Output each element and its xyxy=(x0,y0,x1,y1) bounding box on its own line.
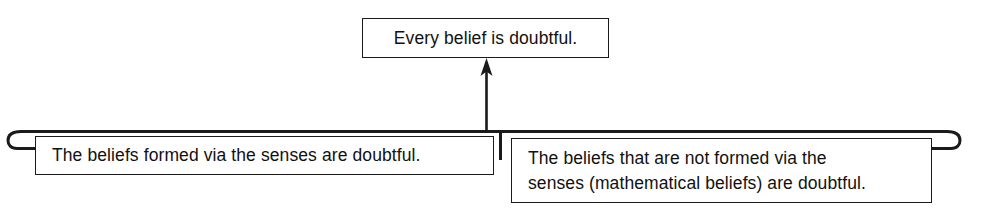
bracket-right-hook-icon xyxy=(932,132,960,149)
conclusion-label: Every belief is doubtful. xyxy=(380,26,591,51)
conclusion-node: Every belief is doubtful. xyxy=(362,18,609,58)
premise-two-label: The beliefs that are not formed via the … xyxy=(512,146,882,196)
bracket-left-hook-icon xyxy=(8,132,36,149)
inference-arrowhead-icon xyxy=(481,58,493,76)
premise-one-label: The beliefs formed via the senses are do… xyxy=(36,143,437,168)
premise-node-two: The beliefs that are not formed via the … xyxy=(511,138,932,203)
premise-node-one: The beliefs formed via the senses are do… xyxy=(35,136,494,175)
argument-diagram: Every belief is doubtful. The beliefs fo… xyxy=(0,0,982,215)
